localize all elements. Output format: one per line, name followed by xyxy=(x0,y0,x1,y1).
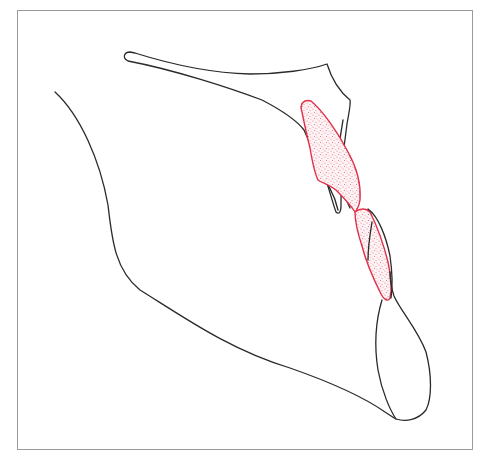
lower-incisor xyxy=(355,209,391,300)
tracing-svg xyxy=(0,0,481,466)
tracing-canvas: Cephalometric tracing xyxy=(0,0,481,466)
